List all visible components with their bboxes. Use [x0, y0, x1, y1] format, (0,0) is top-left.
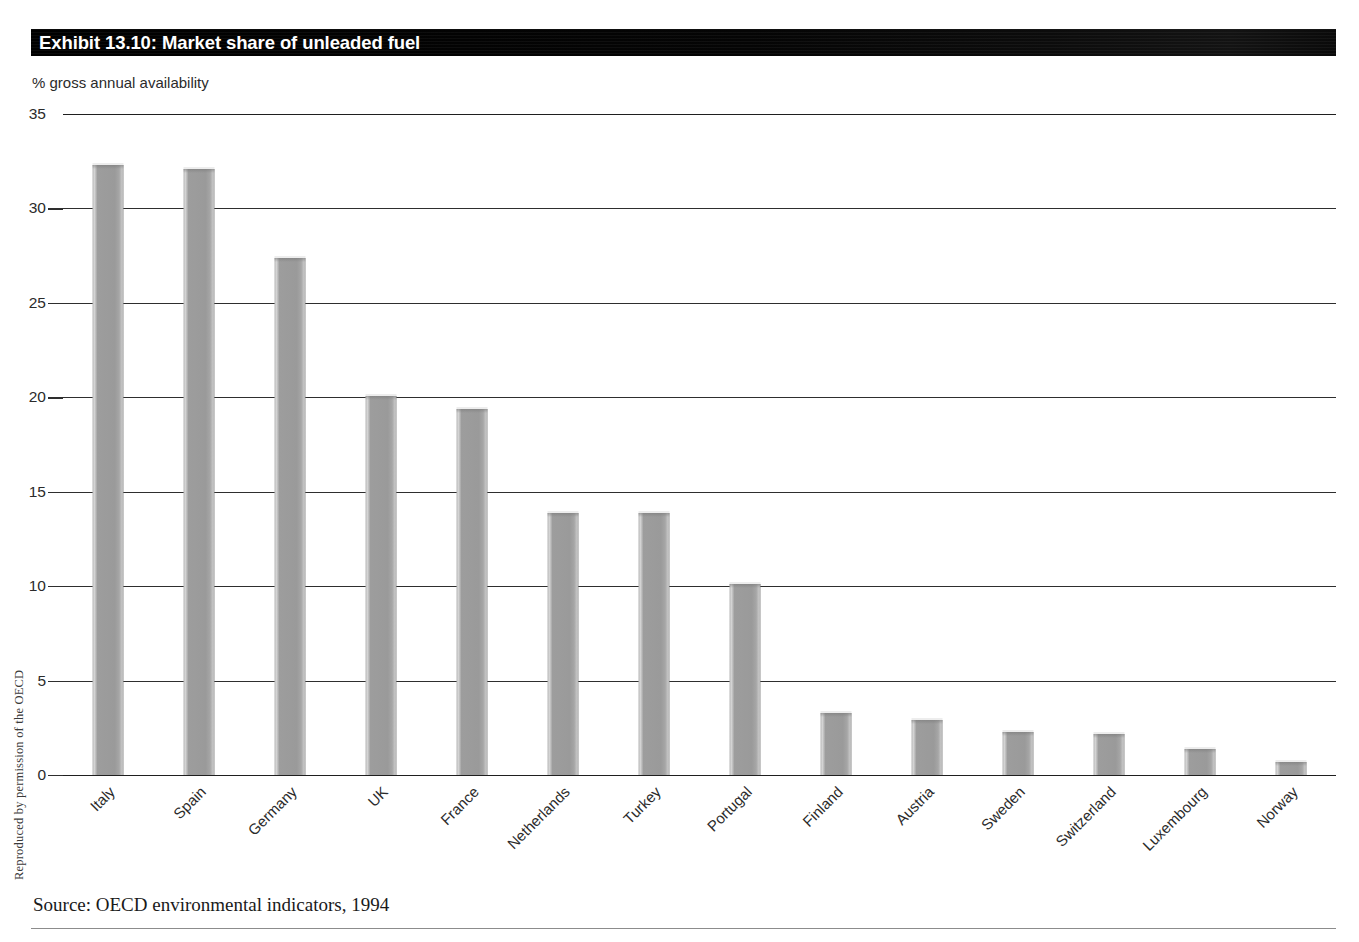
page-title: Exhibit 13.10: Market share of unleaded … [39, 32, 420, 54]
x-axis-label-italy: Italy [87, 783, 118, 814]
x-label-slot: Finland [790, 779, 881, 889]
bar-slot [700, 114, 791, 775]
chart-plot-area: 05101520253035 [63, 114, 1336, 775]
y-tick-mark [48, 586, 63, 587]
x-label-slot: Norway [1245, 779, 1336, 889]
bar [1275, 760, 1306, 775]
bar-slot [245, 114, 336, 775]
bar [93, 163, 124, 775]
bar [1002, 730, 1033, 775]
y-tick-mark [48, 303, 63, 304]
bar-slot [1063, 114, 1154, 775]
bar-slot [1154, 114, 1245, 775]
bar [820, 711, 851, 775]
gridline-0: 0 [63, 775, 1336, 776]
x-label-slot: Turkey [609, 779, 700, 889]
x-axis-label-spain: Spain [170, 783, 209, 822]
y-tick-label: 35 [29, 105, 46, 123]
x-axis-label-portugal: Portugal [703, 783, 755, 835]
y-tick-mark [48, 681, 63, 682]
bar-slot [336, 114, 427, 775]
x-label-slot: Austria [881, 779, 972, 889]
y-tick-label: 15 [29, 483, 46, 501]
x-label-slot: Germany [245, 779, 336, 889]
y-tick-label: 25 [29, 294, 46, 312]
x-label-slot: Switzerland [1063, 779, 1154, 889]
bar-slot [790, 114, 881, 775]
chart-subtitle: % gross annual availability [32, 74, 209, 91]
bar [911, 718, 942, 775]
x-axis-label-finland: Finland [799, 783, 846, 830]
source-note: Source: OECD environmental indicators, 1… [33, 894, 389, 916]
bar [275, 256, 306, 775]
x-label-slot: Luxembourg [1154, 779, 1245, 889]
exhibit-title-bar: Exhibit 13.10: Market share of unleaded … [31, 29, 1336, 56]
x-axis-label-france: France [437, 783, 482, 828]
x-label-slot: Spain [154, 779, 245, 889]
x-label-slot: France [427, 779, 518, 889]
y-tick-label: 5 [37, 672, 46, 690]
x-label-slot: Italy [63, 779, 154, 889]
x-label-slot: Portugal [700, 779, 791, 889]
x-axis-label-austria: Austria [892, 783, 937, 828]
bar-slot [427, 114, 518, 775]
x-label-slot: UK [336, 779, 427, 889]
bar-slot [63, 114, 154, 775]
x-label-slot: Sweden [972, 779, 1063, 889]
bar [639, 511, 670, 775]
y-tick-label: 20 [29, 388, 46, 406]
bars-group [63, 114, 1336, 775]
bar [729, 582, 760, 775]
bar [1093, 732, 1124, 775]
bar [1184, 747, 1215, 775]
x-axis-label-uk: UK [364, 783, 391, 810]
bar-slot [1245, 114, 1336, 775]
bar [366, 394, 397, 775]
y-tick-mark [48, 208, 63, 209]
x-axis-labels: ItalySpainGermanyUKFranceNetherlandsTurk… [63, 779, 1336, 889]
x-label-slot: Netherlands [518, 779, 609, 889]
bar-slot [972, 114, 1063, 775]
x-axis-label-norway: Norway [1253, 783, 1301, 831]
y-tick-mark [48, 492, 63, 493]
y-tick-mark [48, 397, 63, 398]
bar [457, 407, 488, 775]
x-axis-label-germany: Germany [245, 783, 301, 839]
exhibit-figure: Exhibit 13.10: Market share of unleaded … [0, 0, 1359, 942]
x-axis-label-sweden: Sweden [977, 783, 1027, 833]
bar-slot [881, 114, 972, 775]
y-tick-label: 10 [29, 577, 46, 595]
bottom-divider [31, 928, 1336, 929]
bar-slot [518, 114, 609, 775]
y-tick-label: 30 [29, 199, 46, 217]
y-tick-mark [48, 775, 63, 776]
bar [184, 167, 215, 775]
bar-slot [609, 114, 700, 775]
y-tick-label: 0 [37, 766, 46, 784]
x-axis-label-turkey: Turkey [620, 783, 664, 827]
bar [548, 511, 579, 775]
side-credit: Reproduced by permission of the OECD [12, 670, 27, 880]
bar-slot [154, 114, 245, 775]
